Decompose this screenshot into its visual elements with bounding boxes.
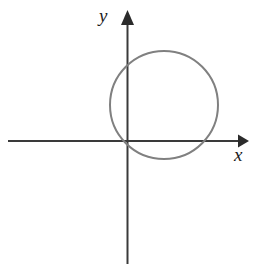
coordinate-plane-canvas [0,0,263,267]
y-axis-arrowhead [121,10,134,25]
y-axis-label: y [99,6,107,25]
x-axis-label: x [234,145,242,164]
plotted-circle [110,51,218,159]
graph-figure: y x [0,0,263,267]
